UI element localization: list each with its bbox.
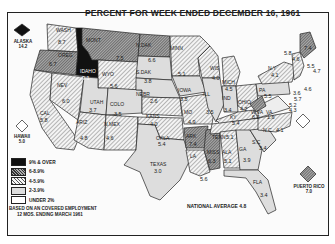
label-oreg: OREG <box>58 52 73 58</box>
value-ark: 7.4 <box>189 141 197 147</box>
label-miss: MISS <box>207 149 220 155</box>
label-tenn: TENN <box>212 134 226 140</box>
legend-item: UNDER 2% <box>11 196 56 204</box>
value-ala: 5.1 <box>224 158 232 164</box>
value-sdak: 3.8 <box>144 78 152 84</box>
label-mo: MO <box>184 109 192 115</box>
value-mich: 4.5 <box>225 86 233 92</box>
swatch-white <box>11 196 26 204</box>
value-conn: 4.6 <box>304 86 312 92</box>
map-title: PERCENT FOR WEEK ENDED DECEMBER 16, 1961 <box>85 8 300 18</box>
value-colo: 3.5 <box>114 111 122 117</box>
value-la: 5.6 <box>200 176 208 182</box>
value-maine: 7.4 <box>304 45 312 51</box>
value-kans: 4.0 <box>150 121 158 127</box>
national-average: NATIONAL AVERAGE 4.8 <box>187 203 246 209</box>
value-utah: 3.7 <box>89 107 97 113</box>
footnote: BASED ON AN COVERED EMPLOYMENT 12 MOS. E… <box>9 206 97 217</box>
label-ark: ARK <box>186 133 197 139</box>
value-tenn: 5.1 <box>226 134 234 140</box>
label-ariz: ARIZ <box>76 119 87 125</box>
value-ri: 4.7 <box>313 68 321 74</box>
label-ga: GA <box>239 146 247 152</box>
label-la: LA <box>190 153 197 159</box>
value-wyo: 5.6 <box>110 83 118 89</box>
inset-alaska <box>14 24 30 36</box>
value-vt: 5.8 <box>284 50 292 56</box>
label-ill: ILL <box>203 91 210 97</box>
label-ny: N.Y <box>268 65 277 71</box>
swatch-hatch <box>11 177 26 185</box>
value-mo: 4.9 <box>188 119 196 125</box>
value-texas: 3.0 <box>154 168 162 174</box>
value-sc: 3.4 <box>259 145 267 151</box>
value-nc: 4.1 <box>276 127 284 133</box>
value-wash: 8.7 <box>58 39 66 45</box>
value-ohio: 4.2 <box>240 106 248 112</box>
value-ga: 3.9 <box>243 157 251 163</box>
value-oreg: 6.7 <box>49 61 57 67</box>
value-ill: 3.5 <box>206 109 214 115</box>
label-iowa: IOWA <box>178 87 192 93</box>
state-mont <box>82 28 140 62</box>
inset-hawaii <box>16 120 28 132</box>
value-minn: 5.1 <box>178 71 186 77</box>
value-okla: 5.4 <box>158 141 166 147</box>
label-mont: MONT <box>86 37 101 43</box>
value-pa: 5.5 <box>264 93 272 99</box>
label-texas: TEXAS <box>150 161 167 167</box>
label-wis: WIS <box>210 65 220 71</box>
legend: 9% & OVER 6-8.9% 4-5.9% 2-3.9% UNDER 2% <box>11 158 56 206</box>
legend-item: 6-8.9% <box>11 168 56 176</box>
puerto-rico-label: PUERTO RICO 7.0 <box>292 184 326 194</box>
swatch-dense-hatch <box>11 168 26 176</box>
value-ndak: 6.6 <box>148 57 156 63</box>
label-sdak: S.DAK <box>136 69 152 75</box>
swatch-black <box>11 158 26 166</box>
value-nev: 6.0 <box>62 98 70 104</box>
label-ind: IND <box>222 95 231 101</box>
value-cal: 5.8 <box>40 117 48 123</box>
value-dc: 4.3 <box>289 107 297 113</box>
legend-item: 2-3.9% <box>11 187 56 195</box>
label-nmex: N.MEX <box>104 121 121 127</box>
state-ariz <box>74 112 106 150</box>
label-nev: NEV <box>57 82 68 88</box>
value-iowa: 3.5 <box>180 96 188 102</box>
legend-item: 9% & OVER <box>11 158 56 166</box>
label-idaho: IDAHO <box>80 68 96 74</box>
label-colo: COLO <box>110 101 124 107</box>
alaska-label: ALASKA 14.2 <box>10 39 36 49</box>
label-ndak: N.DAK <box>136 42 152 48</box>
inset-puerto-rico <box>300 166 316 182</box>
label-kans: KANS <box>146 113 160 119</box>
label-nc: N.C <box>263 127 272 133</box>
value-idaho: 9.1 <box>82 75 90 81</box>
value-ky: 5.4 <box>232 120 240 126</box>
legend-item: 4-5.9% <box>11 177 56 185</box>
label-ala: ALA <box>222 149 232 155</box>
value-ariz: 4.8 <box>80 135 88 141</box>
swatch-light-gray <box>11 187 26 195</box>
value-wis: 4.0 <box>212 75 220 81</box>
label-ohio: OHIO <box>238 99 251 105</box>
label-nebr: NEBR <box>136 91 150 97</box>
label-mich: MICH <box>222 79 235 85</box>
label-cal: CAL <box>40 110 50 116</box>
label-utah: UTAH <box>90 99 104 105</box>
value-fla: 3.4 <box>260 192 268 198</box>
value-nh: 4.6 <box>292 56 300 62</box>
value-miss: 6.3 <box>208 158 216 164</box>
hawaii-label: HAWAII 5.0 <box>8 134 36 144</box>
value-nebr: 2.6 <box>150 98 158 104</box>
value-mont: 7.5 <box>116 55 124 61</box>
value-ny: 4.1 <box>271 72 279 78</box>
value-wva: 6.2 <box>252 114 260 120</box>
label-wyo: WYO <box>102 71 114 77</box>
label-wash: WASH <box>56 27 71 33</box>
value-va: 1.6 <box>267 114 275 120</box>
value-ind: 3.4 <box>224 107 232 113</box>
value-nmex: 4.6 <box>106 135 114 141</box>
inset-dc <box>296 114 310 128</box>
label-fla: FLA <box>253 179 263 185</box>
